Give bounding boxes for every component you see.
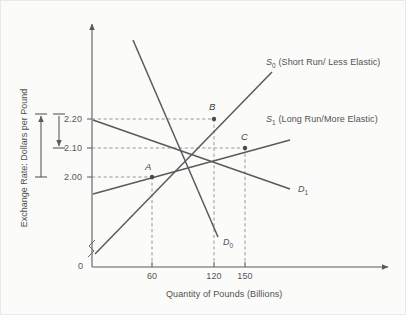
point-label-c: C	[241, 131, 248, 142]
y-axis-ticks	[87, 119, 92, 177]
x-axis-ticks	[152, 262, 245, 267]
curve-label-d1-symbol: D	[298, 184, 305, 194]
curve-label-s1: S1 (Long Run/More Elastic)	[266, 114, 378, 126]
y-tick-label-210: 2.10	[52, 143, 82, 153]
x-tick-label-60: 60	[139, 271, 165, 281]
x-axis-title: Quantity of Pounds (Billions)	[166, 289, 282, 299]
origin-label: 0	[78, 261, 83, 271]
curve-s0	[95, 72, 272, 254]
chart-canvas	[0, 0, 406, 315]
curve-label-d1-subscript: 1	[305, 189, 309, 196]
curve-label-d0: D0	[223, 237, 233, 249]
point-c-marker	[243, 146, 247, 150]
curve-label-s0-text: (Short Run/ Less Elastic)	[276, 57, 381, 67]
curve-label-s0: S0 (Short Run/ Less Elastic)	[266, 57, 380, 69]
exchange-rate-supply-demand-figure: 2.20 2.10 2.00 60 120 150 0 Exchange Rat…	[0, 0, 406, 315]
curve-label-d0-subscript: 0	[230, 242, 234, 249]
curve-d1	[93, 120, 290, 189]
curve-label-s1-text: (Long Run/More Elastic)	[276, 114, 378, 124]
y-tick-label-220: 2.20	[52, 114, 82, 124]
curve-label-d1: D1	[298, 184, 308, 196]
x-tick-label-150: 150	[232, 271, 258, 281]
y-axis-title: Exchange Rate: Dollars per Pound	[19, 73, 29, 243]
point-label-b: B	[209, 101, 215, 112]
point-b-marker	[212, 117, 216, 121]
x-tick-label-120: 120	[201, 271, 227, 281]
point-label-a: A	[145, 161, 151, 172]
y-tick-label-200: 2.00	[52, 172, 82, 182]
curve-label-d0-symbol: D	[223, 237, 230, 247]
point-a-marker	[150, 175, 154, 179]
